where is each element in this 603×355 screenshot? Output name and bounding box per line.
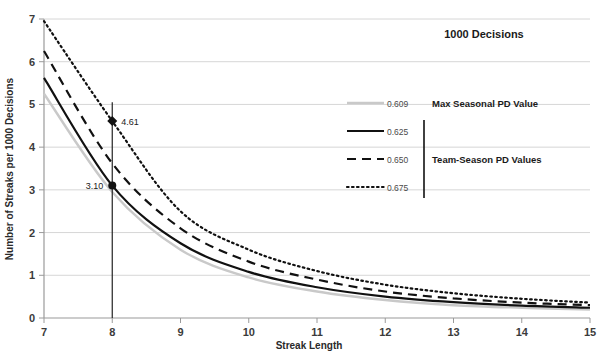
chart-container: 4.613.10 789101112131415 01234567 0.609M… — [0, 0, 603, 355]
x-tick-label: 7 — [41, 326, 47, 338]
x-tick-label: 10 — [243, 326, 255, 338]
y-axis-title: Number of Streaks per 1000 Decisions — [4, 77, 15, 260]
chart-legend: 0.609Max Seasonal PD Value0.6250.6500.67… — [347, 98, 542, 199]
legend-group-label: Team-Season PD Values — [432, 154, 542, 165]
x-tick-label: 12 — [379, 326, 391, 338]
y-tick-label: 5 — [29, 98, 35, 110]
x-axis-tick-labels: 789101112131415 — [41, 326, 596, 338]
x-tick-label: 9 — [177, 326, 183, 338]
series-line-0-625 — [44, 78, 590, 308]
axis-lines — [39, 19, 590, 323]
x-tick-label: 8 — [109, 326, 115, 338]
legend-value-label: 0.625 — [387, 127, 409, 137]
x-axis-title: Streak Length — [276, 340, 343, 351]
legend-value-label: 0.650 — [387, 155, 409, 165]
x-tick-label: 13 — [447, 326, 459, 338]
y-tick-label: 7 — [29, 13, 35, 25]
legend-group-label: Max Seasonal PD Value — [432, 98, 538, 109]
y-tick-label: 3 — [29, 184, 35, 196]
y-tick-label: 1 — [29, 269, 35, 281]
x-tick-label: 15 — [584, 326, 596, 338]
y-tick-label: 2 — [29, 227, 35, 239]
legend-value-label: 0.675 — [387, 183, 409, 193]
y-tick-label: 6 — [29, 56, 35, 68]
gridlines — [44, 19, 590, 275]
data-point-marker-circle — [108, 182, 116, 190]
data-point-label: 3.10 — [86, 181, 104, 191]
data-point-label: 4.61 — [121, 117, 139, 127]
legend-value-label: 0.609 — [387, 99, 409, 109]
chart-title: 1000 Decisions — [444, 28, 524, 40]
x-tick-label: 11 — [311, 326, 323, 338]
line-chart: 4.613.10 789101112131415 01234567 0.609M… — [0, 0, 603, 355]
series-layer — [44, 21, 590, 309]
y-tick-label: 0 — [29, 312, 35, 324]
x-tick-label: 14 — [516, 326, 529, 338]
y-axis-tick-labels: 01234567 — [29, 13, 36, 324]
y-tick-label: 4 — [29, 141, 36, 153]
series-line-0-650 — [44, 51, 590, 305]
